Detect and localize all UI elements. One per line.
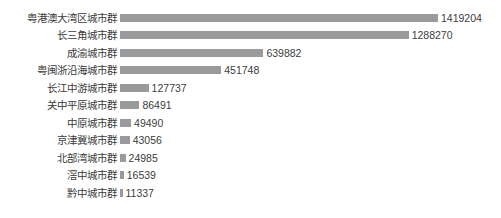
bar-and-value: 86491 bbox=[120, 97, 172, 115]
bar[interactable] bbox=[120, 154, 126, 162]
bar-and-value: 127737 bbox=[120, 79, 187, 97]
category-label: 关中平原城市群 bbox=[0, 99, 117, 111]
bar-row: 长三角城市群1288270 bbox=[0, 27, 501, 45]
bar[interactable] bbox=[120, 49, 263, 57]
category-label: 京津冀城市群 bbox=[0, 134, 117, 146]
bar-and-value: 639882 bbox=[120, 44, 301, 62]
value-label: 16539 bbox=[127, 169, 156, 181]
value-label: 639882 bbox=[266, 47, 301, 59]
bar-row: 成渝城市群639882 bbox=[0, 44, 501, 62]
value-label: 451748 bbox=[224, 64, 259, 76]
value-label: 86491 bbox=[142, 99, 171, 111]
value-label: 127737 bbox=[152, 82, 187, 94]
bar[interactable] bbox=[120, 136, 130, 144]
bar-row: 关中平原城市群86491 bbox=[0, 97, 501, 115]
bar-and-value: 451748 bbox=[120, 62, 259, 80]
bar[interactable] bbox=[120, 189, 123, 197]
category-label: 粤港澳大湾区城市群 bbox=[0, 12, 117, 24]
bar[interactable] bbox=[120, 101, 139, 109]
category-label: 长江中游城市群 bbox=[0, 82, 117, 94]
bar-and-value: 43056 bbox=[120, 132, 162, 150]
value-label: 1419204 bbox=[441, 12, 482, 24]
bar-chart: 粤港澳大湾区城市群1419204长三角城市群1288270成渝城市群639882… bbox=[0, 0, 501, 218]
category-label: 滘中城市群 bbox=[0, 169, 117, 181]
category-label: 黔中城市群 bbox=[0, 187, 117, 199]
category-label: 北部湾城市群 bbox=[0, 152, 117, 164]
bar[interactable] bbox=[120, 119, 131, 127]
bar-row: 长江中游城市群127737 bbox=[0, 79, 501, 97]
category-label: 成渝城市群 bbox=[0, 47, 117, 59]
bar[interactable] bbox=[120, 14, 438, 22]
category-label: 粤闽浙沿海城市群 bbox=[0, 64, 117, 76]
bar-and-value: 1288270 bbox=[120, 27, 453, 45]
plot-area: 粤港澳大湾区城市群1419204长三角城市群1288270成渝城市群639882… bbox=[0, 0, 501, 218]
value-label: 49490 bbox=[134, 117, 163, 129]
bar-and-value: 24985 bbox=[120, 149, 158, 167]
bar[interactable] bbox=[120, 31, 409, 39]
value-label: 43056 bbox=[133, 134, 162, 146]
bar-row: 京津冀城市群43056 bbox=[0, 132, 501, 150]
bar-row: 粤闽浙沿海城市群451748 bbox=[0, 62, 501, 80]
value-label: 1288270 bbox=[412, 29, 453, 41]
bar-and-value: 49490 bbox=[120, 114, 163, 132]
value-label: 24985 bbox=[129, 152, 158, 164]
value-label: 11337 bbox=[126, 187, 154, 199]
category-label: 中原城市群 bbox=[0, 117, 117, 129]
bar-row: 中原城市群49490 bbox=[0, 114, 501, 132]
bar-row: 黔中城市群11337 bbox=[0, 184, 501, 202]
bar-row: 粤港澳大湾区城市群1419204 bbox=[0, 9, 501, 27]
category-label: 长三角城市群 bbox=[0, 29, 117, 41]
bar-row: 北部湾城市群24985 bbox=[0, 149, 501, 167]
bar-and-value: 1419204 bbox=[120, 9, 482, 27]
bar-and-value: 11337 bbox=[120, 184, 154, 202]
bar[interactable] bbox=[120, 66, 221, 74]
bar-and-value: 16539 bbox=[120, 167, 156, 185]
bar[interactable] bbox=[120, 84, 149, 92]
bar[interactable] bbox=[120, 171, 124, 179]
bar-row: 滘中城市群16539 bbox=[0, 167, 501, 185]
